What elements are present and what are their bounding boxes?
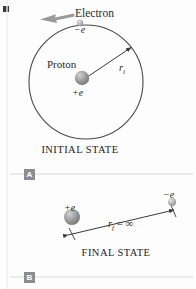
initial-state-caption: INITIAL STATE: [0, 145, 160, 156]
electron-charge-label-initial: −e: [74, 25, 85, 35]
final-distance-equals: =: [117, 217, 123, 229]
proton-label: Proton: [47, 59, 76, 70]
proton-charge-label-final: +e: [64, 203, 75, 213]
proton-charge-label-initial: +e: [72, 88, 83, 98]
proton-sphere: [75, 71, 89, 85]
final-distance-label: rf = ∞: [108, 218, 133, 232]
distance-tick-right: [170, 203, 176, 217]
initial-radius-subscript: i: [123, 68, 125, 76]
physics-figure: Electron −e Proton +e ri INITIAL STATE +…: [0, 0, 196, 289]
initial-radius-label: ri: [119, 63, 125, 76]
corner-square-decoration: [3, 6, 9, 12]
distance-tick-left: [69, 228, 75, 240]
electron-label: Electron: [75, 8, 114, 20]
panel-marker-b: B: [24, 272, 35, 283]
electron-motion-arrow: [40, 14, 75, 24]
electron-charge-label-final: −e: [163, 190, 174, 200]
final-distance-subscript: f: [112, 224, 114, 232]
final-distance-value: ∞: [126, 217, 134, 229]
panel-marker-a: A: [24, 169, 35, 180]
electron-orbit-circle: [29, 25, 143, 139]
final-state-caption: FINAL STATE: [36, 248, 196, 259]
